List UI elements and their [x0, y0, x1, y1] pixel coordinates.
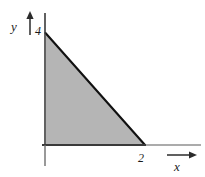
y-intercept-tick-label: 4 [35, 25, 41, 37]
math-figure-triangle-region: y x 4 2 [0, 0, 205, 177]
x-intercept-tick-label: 2 [138, 152, 144, 164]
x-axis-label: x [174, 160, 180, 173]
figure-canvas [0, 0, 205, 177]
y-axis-label: y [11, 20, 17, 33]
